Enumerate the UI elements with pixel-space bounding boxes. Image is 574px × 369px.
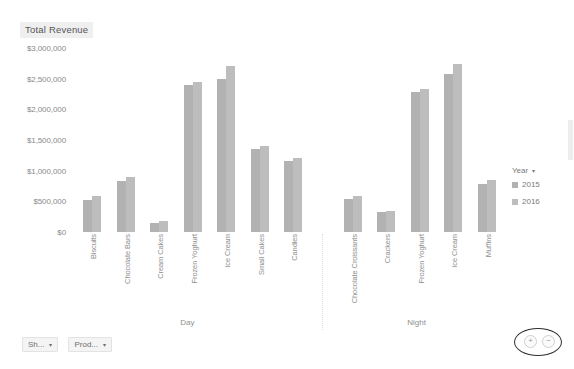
plot-area [74, 48, 502, 232]
panel-label-night: Night [407, 318, 426, 327]
legend-item-label: 2016 [522, 197, 540, 206]
legend-item-2016[interactable]: 2016 [512, 197, 568, 206]
filter-product-label: Prod... [74, 340, 98, 349]
zoom-in-button[interactable]: + [524, 335, 537, 348]
x-axis-category-label: Muffins [484, 234, 493, 257]
x-axis-category-label: Frozen Yoghurt [417, 234, 426, 283]
visualization-canvas: Total Revenue $0$500,000$1,000,000$1,500… [0, 0, 574, 369]
bar[interactable] [444, 74, 453, 232]
panel-label-day: Day [180, 318, 194, 327]
bar[interactable] [117, 181, 126, 232]
x-axis-category-label: Small Cakes [257, 234, 266, 275]
bar-group [444, 48, 462, 232]
zoom-control: + − [524, 335, 555, 348]
bar[interactable] [453, 64, 462, 232]
bar[interactable] [377, 212, 386, 232]
x-axis-category-label: Biscuits [89, 234, 98, 259]
y-axis-tick: $3,000,000 [27, 44, 66, 53]
filter-product-dropdown[interactable]: Prod... ▾ [68, 337, 112, 352]
x-axis-category-label: Cream Cakes [156, 234, 165, 279]
x-axis-category-label: Ice Cream [223, 234, 232, 268]
x-axis-category-label: Crackers [383, 234, 392, 263]
legend-swatch [512, 199, 518, 205]
bar[interactable] [353, 196, 362, 232]
legend-header[interactable]: Year ▾ [512, 166, 568, 175]
bar[interactable] [126, 177, 135, 232]
y-axis-labels: $0$500,000$1,000,000$1,500,000$2,000,000… [0, 48, 70, 232]
legend-item-label: 2015 [522, 180, 540, 189]
filter-shift-dropdown[interactable]: Sh... ▾ [22, 337, 58, 352]
y-axis-tick: $500,000 [33, 197, 66, 206]
bar[interactable] [344, 199, 353, 232]
bar[interactable] [217, 79, 226, 232]
bar[interactable] [420, 89, 429, 232]
bar[interactable] [386, 211, 395, 232]
bar-group [184, 48, 202, 232]
bar[interactable] [83, 200, 92, 233]
chevron-down-icon: ▾ [103, 342, 106, 348]
bar-group [217, 48, 235, 232]
bar-group [150, 48, 168, 232]
bar[interactable] [193, 82, 202, 232]
x-axis-labels: BiscuitsChocolate BarsCream CakesFrozen … [74, 234, 502, 308]
scrollbar[interactable] [568, 120, 573, 160]
bar[interactable] [159, 221, 168, 232]
y-axis-tick: $1,000,000 [27, 166, 66, 175]
bar-group [251, 48, 269, 232]
bar[interactable] [411, 92, 420, 232]
bar-group [117, 48, 135, 232]
page-title: Total Revenue [20, 22, 93, 38]
y-axis-tick: $2,000,000 [27, 105, 66, 114]
bar-group [83, 48, 101, 232]
panel-separator [322, 234, 323, 330]
bar-group [284, 48, 302, 232]
bar[interactable] [226, 66, 235, 232]
bar[interactable] [284, 161, 293, 232]
legend-item-2015[interactable]: 2015 [512, 180, 568, 189]
bar[interactable] [184, 85, 193, 232]
x-axis-category-label: Ice Cream [450, 234, 459, 268]
bar-group [411, 48, 429, 232]
zoom-out-button[interactable]: − [542, 335, 555, 348]
bar[interactable] [251, 149, 260, 232]
y-axis-tick: $1,500,000 [27, 136, 66, 145]
legend-title: Year [512, 166, 528, 175]
filter-bar: Sh... ▾ Prod... ▾ [22, 337, 112, 352]
legend-swatch [512, 182, 518, 188]
chevron-down-icon: ▾ [49, 342, 52, 348]
bar-group [377, 48, 395, 232]
bar[interactable] [92, 196, 101, 232]
x-axis-category-label: Candies [290, 234, 299, 261]
filter-shift-label: Sh... [28, 340, 44, 349]
bar-group [478, 48, 496, 232]
bar[interactable] [260, 146, 269, 232]
y-axis-tick: $2,500,000 [27, 74, 66, 83]
x-axis-category-label: Frozen Yoghurt [190, 234, 199, 283]
x-axis-category-label: Chocolate Bars [123, 234, 132, 284]
bar-group [344, 48, 362, 232]
bar[interactable] [478, 184, 487, 232]
legend: Year ▾ 2015 2016 [512, 166, 568, 214]
bar[interactable] [487, 180, 496, 232]
y-axis-tick: $0 [57, 228, 66, 237]
chevron-down-icon[interactable]: ▾ [532, 168, 535, 174]
bar[interactable] [150, 223, 159, 232]
bar[interactable] [293, 158, 302, 232]
x-axis-category-label: Chocolate Croissants [350, 234, 359, 303]
